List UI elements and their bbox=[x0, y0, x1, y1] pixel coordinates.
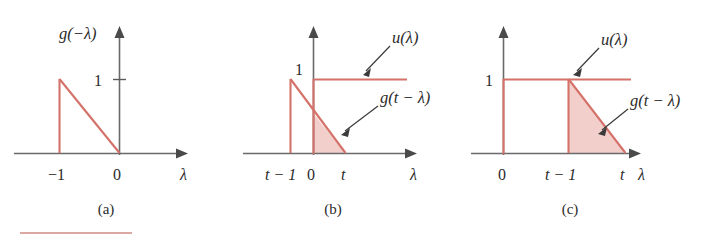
panel-a-caption: (a) bbox=[98, 201, 115, 218]
panel-b-x-axis-label: λ bbox=[409, 166, 417, 183]
panel-b-caption: (b) bbox=[324, 201, 342, 218]
convolution-figure: g(−λ) λ 1 −1 0 (a) bbox=[0, 0, 704, 241]
panel-b: u(λ) g(t − λ) 1 λ t − 1 0 t (b) bbox=[235, 0, 465, 241]
panel-c-y-tick-label: 1 bbox=[485, 72, 493, 89]
bottom-rule-mark bbox=[20, 232, 132, 234]
panel-b-x-tick-label-2: t bbox=[341, 166, 346, 183]
panel-c-label-u-lambda: u(λ) bbox=[601, 30, 627, 49]
panel-a-y-axis bbox=[115, 26, 125, 155]
panel-c-annotation-u-lambda: u(λ) bbox=[573, 30, 627, 77]
panel-b-x-tick-label-0: t − 1 bbox=[265, 166, 296, 183]
panel-a-x-axis bbox=[14, 149, 188, 159]
panel-c-caption: (c) bbox=[562, 201, 579, 218]
panel-b-label-g-t-minus-lambda: g(t − λ) bbox=[380, 88, 430, 107]
panel-a-y-axis-label: g(−λ) bbox=[59, 24, 97, 43]
panel-a-y-tick-label: 1 bbox=[94, 72, 102, 89]
panel-b-label-u-lambda: u(λ) bbox=[392, 28, 418, 47]
panel-c-label-g-t-minus-lambda: g(t − λ) bbox=[630, 91, 680, 110]
panel-a-x-tick-label-0: −1 bbox=[48, 166, 65, 183]
panel-c-x-axis-label: λ bbox=[637, 166, 645, 183]
panel-c-x-tick-label-1: t − 1 bbox=[545, 166, 576, 183]
panel-b-annotation-u-lambda: u(λ) bbox=[363, 28, 418, 77]
panel-b-x-tick-label-1: 0 bbox=[307, 166, 315, 183]
panel-b-y-tick-label: 1 bbox=[295, 61, 303, 78]
panel-b-annotation-g-t-minus-lambda: g(t − λ) bbox=[341, 88, 430, 137]
panel-a-x-tick-label-1: 0 bbox=[113, 166, 121, 183]
panel-a-curve-g-neg-lambda bbox=[60, 79, 120, 153]
panel-c-x-tick-label-2: t bbox=[620, 166, 625, 183]
panel-a-x-axis-label: λ bbox=[179, 166, 187, 183]
panel-c-annotation-g-t-minus-lambda: g(t − λ) bbox=[598, 91, 680, 136]
panel-c-x-tick-label-0: 0 bbox=[498, 166, 506, 183]
panel-c: u(λ) g(t − λ) 1 λ 0 t − 1 t (c) bbox=[465, 0, 704, 241]
panel-a: g(−λ) λ 1 −1 0 (a) bbox=[0, 0, 235, 241]
